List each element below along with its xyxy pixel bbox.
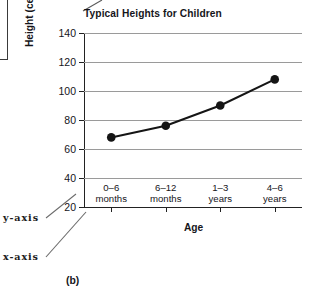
x-axis-tick [166, 207, 167, 212]
y-axis-tick-label: 140 [58, 28, 76, 39]
page-border-artifact [0, 0, 8, 60]
x-axis-tick [220, 207, 221, 212]
x-axis-category-line: 1–3 [209, 182, 232, 193]
plot-area: 20406080100120140 [84, 33, 302, 207]
x-axis-category-line: months [150, 193, 181, 204]
x-axis-tick [275, 207, 276, 212]
x-axis-category-line: years [209, 193, 232, 204]
data-point [161, 122, 170, 131]
x-axis-category-line: 4–6 [263, 182, 286, 193]
height-series [84, 33, 302, 207]
y-axis-callout-label: y-axis [3, 212, 39, 223]
data-point [107, 133, 116, 142]
series-line [111, 79, 275, 137]
data-point [270, 75, 279, 84]
x-axis-title-text: Age [184, 222, 203, 233]
figure-label: (b) [66, 275, 79, 286]
data-point [216, 101, 225, 110]
x-axis-category-label: 6–12months [150, 182, 181, 205]
x-axis-category-line: 6–12 [150, 182, 181, 193]
y-axis-tick-label: 40 [64, 173, 76, 184]
chart-title: Typical Heights for Children [84, 8, 222, 19]
x-axis-category-label: 1–3years [209, 182, 232, 205]
x-axis-category-label: 4–6years [263, 182, 286, 205]
y-axis-tick-label: 60 [64, 144, 76, 155]
y-axis-tick-label: 120 [58, 57, 76, 68]
y-axis-title: Height (centimetres) [24, 0, 35, 47]
x-axis-category-line: years [263, 193, 286, 204]
x-axis-callout-label: x-axis [3, 251, 39, 262]
y-axis-tick-label: 80 [64, 115, 76, 126]
y-axis-tick-label: 100 [58, 86, 76, 97]
figure-panel: Typical Heights for Children Height (cen… [0, 0, 311, 298]
